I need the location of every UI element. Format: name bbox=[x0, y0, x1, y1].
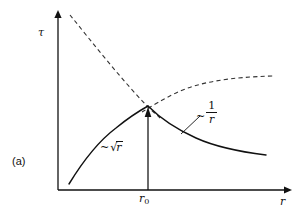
plot-canvas bbox=[0, 0, 307, 214]
r0-vertical-indicator bbox=[145, 107, 152, 190]
radical-argument: r bbox=[116, 141, 122, 153]
tilde-symbol-inverse: ~ bbox=[196, 111, 205, 122]
x-axis-label: r bbox=[280, 196, 285, 207]
dashed-curve-inverse-r bbox=[70, 15, 160, 118]
fraction-numerator: 1 bbox=[206, 100, 217, 112]
radical-group: √r bbox=[110, 141, 122, 153]
panel-letter-label: (a) bbox=[12, 156, 25, 167]
fraction-denominator: r bbox=[207, 113, 216, 125]
curve-label-sqrt-r: ~√r bbox=[100, 141, 123, 153]
x-axis-tick-label-r0: r0 bbox=[139, 193, 149, 206]
tilde-symbol-sqrt: ~ bbox=[100, 141, 109, 154]
figure-panel-a: τ r r0 (a) ~√r ~1r bbox=[0, 0, 307, 214]
fraction-group: 1r bbox=[206, 100, 217, 125]
axes-group bbox=[54, 10, 292, 194]
curve-label-inverse-r: ~1r bbox=[196, 100, 217, 125]
tick-label-subscript: 0 bbox=[144, 197, 149, 206]
y-axis-label: τ bbox=[38, 27, 44, 38]
x-axis-arrowhead bbox=[284, 186, 292, 193]
y-axis-arrowhead bbox=[54, 10, 61, 18]
